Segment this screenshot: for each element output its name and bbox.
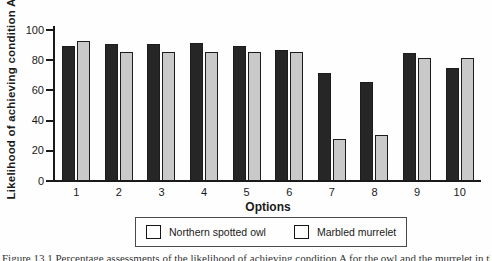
bar-group-option-3 xyxy=(140,44,183,180)
plot-area xyxy=(55,29,481,180)
x-tick-labels: 12345678910 xyxy=(55,186,481,198)
bar-murrelet-option-5 xyxy=(248,52,261,180)
bar-group-option-7 xyxy=(311,73,354,180)
bar-murrelet-option-3 xyxy=(162,52,175,180)
y-tick-20 xyxy=(46,150,54,152)
y-tick-label-80: 80 xyxy=(12,54,44,66)
x-tick-label-3: 3 xyxy=(140,186,183,198)
y-tick-label-20: 20 xyxy=(12,144,44,156)
x-tick-label-2: 2 xyxy=(98,186,141,198)
bar-owl-option-1 xyxy=(62,46,75,180)
x-tick-label-10: 10 xyxy=(438,186,481,198)
bar-murrelet-option-7 xyxy=(333,139,346,180)
y-tick-100 xyxy=(46,29,54,31)
x-tick-label-5: 5 xyxy=(225,186,268,198)
bar-murrelet-option-6 xyxy=(290,52,303,180)
x-axis-title: Options xyxy=(55,200,481,214)
owl-legend-swatch xyxy=(146,225,161,239)
bar-murrelet-option-2 xyxy=(120,52,133,180)
y-tick-label-40: 40 xyxy=(12,114,44,126)
owl-legend-label: Northern spotted owl xyxy=(169,226,266,238)
x-tick-label-8: 8 xyxy=(353,186,396,198)
x-tick-label-7: 7 xyxy=(311,186,354,198)
bar-owl-option-8 xyxy=(360,82,373,180)
x-tick-label-9: 9 xyxy=(396,186,439,198)
bar-murrelet-option-8 xyxy=(375,135,388,180)
y-tick-40 xyxy=(46,120,54,122)
bar-group-option-5 xyxy=(225,46,268,180)
bar-murrelet-option-4 xyxy=(205,52,218,180)
y-tick-0 xyxy=(46,180,54,182)
murrelet-legend-label: Marbled murrelet xyxy=(317,226,396,238)
legend-box: Northern spotted owl Marbled murrelet xyxy=(135,217,407,247)
y-tick-label-60: 60 xyxy=(12,84,44,96)
y-tick-label-0: 0 xyxy=(12,175,44,187)
bar-group-option-2 xyxy=(98,44,141,180)
y-tick-60 xyxy=(46,89,54,91)
x-tick-label-4: 4 xyxy=(183,186,226,198)
bar-owl-option-3 xyxy=(147,44,160,180)
y-tick-80 xyxy=(46,59,54,61)
bar-group-option-6 xyxy=(268,50,311,180)
x-tick-label-1: 1 xyxy=(55,186,98,198)
bar-group-option-8 xyxy=(353,82,396,180)
x-axis-line xyxy=(53,180,481,182)
figure-bar-chart: Likelihood of achieving condition A 1234… xyxy=(0,0,492,261)
bar-group-option-9 xyxy=(396,53,439,180)
bar-owl-option-7 xyxy=(318,73,331,180)
murrelet-legend-swatch xyxy=(294,225,309,239)
bar-murrelet-option-10 xyxy=(461,58,474,180)
bar-owl-option-4 xyxy=(190,43,203,180)
y-tick-label-100: 100 xyxy=(12,24,44,36)
bar-group-option-10 xyxy=(438,58,481,180)
caption-fragment: Figure 13.1 Percentage assessments of th… xyxy=(2,252,490,261)
bar-owl-option-6 xyxy=(275,50,288,180)
bar-owl-option-10 xyxy=(446,68,459,180)
x-tick-label-6: 6 xyxy=(268,186,311,198)
bar-owl-option-5 xyxy=(233,46,246,180)
bar-murrelet-option-1 xyxy=(77,41,90,180)
bar-owl-option-2 xyxy=(105,44,118,180)
bar-group-option-4 xyxy=(183,43,226,180)
bar-owl-option-9 xyxy=(403,53,416,180)
bar-murrelet-option-9 xyxy=(418,58,431,180)
bar-group-option-1 xyxy=(55,41,98,180)
